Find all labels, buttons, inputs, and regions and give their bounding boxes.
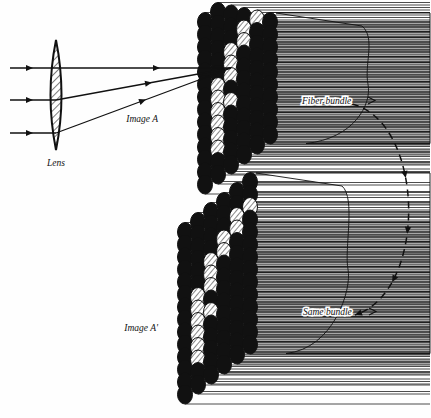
fiber-end-dark xyxy=(243,335,258,354)
same-bundle-label: Same bundle xyxy=(303,307,352,317)
fiber-bundle-label: Fiber bundle xyxy=(301,96,351,106)
fiber-end-dark xyxy=(178,385,193,404)
lower-bundle xyxy=(178,173,431,405)
ray-arrowhead xyxy=(153,65,160,71)
image-a-label: Image A xyxy=(125,114,158,124)
image-a-prime-label: Image A' xyxy=(123,323,159,333)
fiber-end-dark xyxy=(250,135,265,154)
ray-arrowhead xyxy=(26,65,33,71)
lens-label: Lens xyxy=(46,158,65,168)
ray-arrowhead xyxy=(138,97,147,105)
fiber-end-dark xyxy=(198,175,213,194)
fiber-bundles-group xyxy=(178,3,431,405)
ray-arrowhead xyxy=(26,130,33,136)
optical-diagram: LensLensFiber bundleFiber bundleImage AI… xyxy=(0,0,431,418)
fiber-end-dark xyxy=(237,145,252,164)
figure-canvas: LensLensFiber bundleFiber bundleImage AI… xyxy=(0,0,431,418)
fiber-end-dark xyxy=(230,345,245,364)
fiber-end-dark xyxy=(204,365,219,384)
fiber-end-dark xyxy=(211,165,226,184)
fiber-end-dark xyxy=(191,375,206,394)
fiber-end-dark xyxy=(217,355,232,374)
fiber-end-dark xyxy=(224,155,239,174)
fiber-end-dark xyxy=(263,125,278,144)
ray-arrowhead xyxy=(26,97,33,103)
fiber-tube xyxy=(185,385,430,404)
